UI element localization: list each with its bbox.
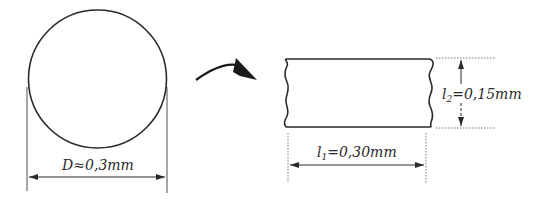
curved-arrow-icon — [196, 58, 257, 80]
diameter-dimension: D≈0,3mm — [27, 87, 167, 193]
circle-cross-section — [29, 10, 167, 148]
diameter-label: D≈0,3mm — [61, 157, 134, 173]
height-label: l2=0,15mm — [442, 86, 522, 104]
width-label: l1=0,30mm — [317, 144, 397, 162]
diagram-canvas: D≈0,3mm l2=0,15mm l1=0,30mm — [0, 0, 551, 199]
height-value: =0,15mm — [452, 86, 521, 102]
height-dimension: l2=0,15mm — [436, 58, 522, 128]
width-value: =0,30mm — [327, 144, 396, 160]
diagram-svg: D≈0,3mm l2=0,15mm l1=0,30mm — [0, 0, 551, 199]
width-dimension: l1=0,30mm — [288, 133, 426, 184]
flattened-cross-section — [284, 59, 433, 127]
